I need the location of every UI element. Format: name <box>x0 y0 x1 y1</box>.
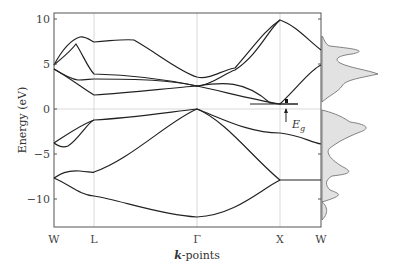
x-axis-tick-labels: W L Γ X W <box>48 233 327 246</box>
xtick-Gamma: Γ <box>193 233 201 246</box>
band-4 <box>54 120 94 143</box>
eg-subscript: g <box>300 124 305 133</box>
ytick-neg5: −5 <box>34 148 50 161</box>
y-axis-label: Energy (eV) <box>16 87 29 154</box>
band-structure-chart: Eg 10 5 0 −5 −10 W L Γ X W k-points Ener… <box>0 0 404 268</box>
xtick-W-left: W <box>48 233 60 246</box>
xtick-X: X <box>276 233 284 246</box>
band-8 <box>54 20 280 78</box>
dos-conduction <box>322 36 378 102</box>
ytick-neg10: −10 <box>27 193 50 206</box>
ytick-5: 5 <box>43 58 50 71</box>
band-2 <box>54 109 280 180</box>
y-axis-tick-labels: 10 5 0 −5 −10 <box>27 13 50 206</box>
ytick-0: 0 <box>43 103 50 116</box>
xtick-W-right: W <box>315 233 327 246</box>
x-axis-label: k-points <box>174 249 220 262</box>
eg-label: E <box>291 118 300 131</box>
band-5 <box>54 69 298 104</box>
band-gap-annotation: Eg <box>250 99 305 133</box>
svg-text:Eg: Eg <box>291 118 305 133</box>
xtick-L: L <box>90 233 98 246</box>
ytick-10: 10 <box>36 13 50 26</box>
dos-valence <box>322 110 366 220</box>
